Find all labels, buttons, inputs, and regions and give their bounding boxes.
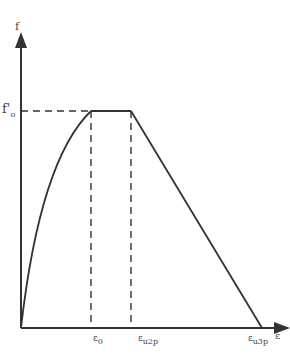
tick-label-e0: ε0	[93, 333, 103, 346]
x-axis-label: ε	[275, 330, 280, 341]
ascending-curve	[21, 111, 91, 328]
tick-label-eu2p: εu2p	[138, 333, 158, 346]
tick-label-eu3p: εu3p	[248, 333, 268, 346]
peak-stress-label: f'o	[2, 101, 15, 119]
y-axis-label: f	[15, 20, 19, 33]
stress-strain-diagram	[0, 0, 290, 355]
descending-line	[131, 111, 262, 328]
